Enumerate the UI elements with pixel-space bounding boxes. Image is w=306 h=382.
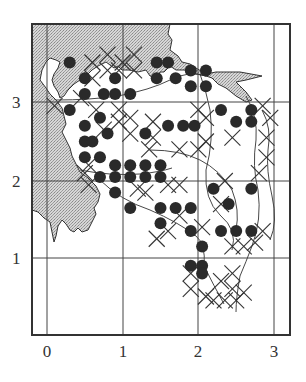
- cross-marker: [224, 130, 240, 146]
- x-tick-label: 2: [194, 343, 203, 360]
- cross-marker: [198, 289, 214, 305]
- dot-marker: [185, 202, 197, 214]
- dot-marker: [139, 159, 151, 171]
- x-tick-label: 3: [270, 343, 279, 360]
- dot-marker: [124, 159, 136, 171]
- dot-marker: [94, 112, 106, 124]
- cross-marker: [224, 265, 240, 281]
- y-tick-label: 3: [12, 94, 21, 111]
- dot-marker: [98, 88, 110, 100]
- y-tick-label: 1: [12, 250, 21, 267]
- cross-marker: [194, 219, 210, 235]
- cross-marker: [149, 231, 165, 247]
- dot-marker: [196, 267, 208, 279]
- dot-marker: [245, 225, 257, 237]
- cross-marker: [141, 141, 157, 157]
- cross-marker: [145, 114, 161, 130]
- dot-marker: [155, 159, 167, 171]
- dot-marker: [94, 171, 106, 183]
- dot-marker: [245, 183, 257, 195]
- dot-marker: [189, 120, 201, 132]
- dot-marker: [109, 187, 121, 199]
- cross-marker: [236, 238, 252, 254]
- dot-marker: [177, 120, 189, 132]
- dot-marker: [139, 128, 151, 140]
- dot-marker: [124, 171, 136, 183]
- cross-marker: [198, 110, 214, 126]
- dot-marker: [196, 240, 208, 252]
- dot-marker: [162, 57, 174, 69]
- dot-marker: [162, 120, 174, 132]
- cross-marker: [258, 149, 274, 165]
- dot-marker: [185, 80, 197, 92]
- dot-marker: [124, 202, 136, 214]
- dot-marker: [185, 64, 197, 76]
- cross-marker: [122, 110, 138, 126]
- dot-marker: [79, 151, 91, 163]
- dot-marker: [102, 128, 114, 140]
- dot-marker: [155, 217, 167, 229]
- dot-marker: [215, 225, 227, 237]
- cross-marker: [183, 281, 199, 297]
- dot-marker: [79, 120, 91, 132]
- dot-marker: [155, 202, 167, 214]
- river-line: [262, 110, 275, 240]
- river-line: [236, 96, 259, 312]
- cross-marker: [171, 177, 187, 193]
- cross-marker: [236, 285, 252, 301]
- dot-marker: [223, 198, 235, 210]
- dot-marker: [215, 104, 227, 116]
- dot-marker: [245, 104, 257, 116]
- dot-marker: [207, 183, 219, 195]
- x-tick-label: 1: [119, 343, 128, 360]
- cross-marker: [171, 141, 187, 157]
- dot-marker: [109, 72, 121, 84]
- dot-marker: [124, 88, 136, 100]
- cross-marker: [130, 181, 146, 197]
- dot-marker: [79, 88, 91, 100]
- cross-marker: [198, 134, 214, 150]
- dot-marker: [185, 260, 197, 272]
- dot-marker: [64, 57, 76, 69]
- cross-marker: [213, 273, 229, 289]
- dot-marker: [200, 64, 212, 76]
- cross-marker: [258, 130, 274, 146]
- cross-marker: [251, 165, 267, 181]
- dot-marker: [155, 171, 167, 183]
- cross-marker: [111, 114, 127, 130]
- dot-marker: [79, 72, 91, 84]
- dot-marker: [94, 151, 106, 163]
- dot-marker: [139, 171, 151, 183]
- dot-marker: [86, 136, 98, 148]
- distribution-map: [0, 0, 306, 382]
- dot-marker: [64, 104, 76, 116]
- dot-marker: [109, 88, 121, 100]
- dot-marker: [200, 80, 212, 92]
- dot-marker: [151, 72, 163, 84]
- dot-marker: [109, 159, 121, 171]
- dot-marker: [185, 225, 197, 237]
- dot-marker: [170, 202, 182, 214]
- dot-marker: [151, 57, 163, 69]
- x-tick-label: 0: [43, 343, 52, 360]
- dot-marker: [109, 171, 121, 183]
- cross-marker: [262, 110, 278, 126]
- dot-marker: [245, 116, 257, 128]
- y-tick-label: 2: [12, 173, 21, 190]
- dot-marker: [230, 225, 242, 237]
- dot-marker: [170, 72, 182, 84]
- dot-marker: [230, 116, 242, 128]
